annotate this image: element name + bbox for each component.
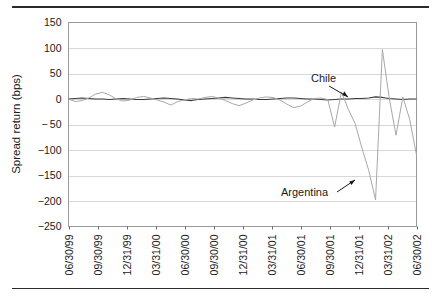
y-tick-label: −200: [38, 195, 62, 207]
gridlines: [69, 49, 417, 202]
x-tick-label: 03/31/02: [382, 234, 394, 275]
annotation-chile-label: Chile: [311, 72, 336, 84]
x-tick-label: 09/30/01: [324, 234, 336, 275]
spread-return-line-chart: 150100500− 50−100−150−200−250 06/30/9909…: [0, 0, 441, 299]
x-tick-label: 09/30/99: [92, 234, 104, 275]
x-tick-label: 03/31/01: [266, 234, 278, 275]
annotation-argentina-label: Argentina: [281, 186, 329, 198]
y-tick-label: 0: [56, 93, 62, 105]
figure-container: 150100500− 50−100−150−200−250 06/30/9909…: [0, 0, 441, 299]
y-tick-label: − 50: [42, 118, 62, 130]
x-tick-label: 06/30/01: [295, 234, 307, 275]
x-tick-label: 09/30/00: [208, 234, 220, 275]
x-tick-label: 12/31/99: [121, 234, 133, 275]
series-line-argentina: [69, 50, 417, 200]
annotation-chile: Chile: [311, 72, 348, 97]
y-tick-label: 50: [50, 67, 62, 79]
y-tick-label: −100: [38, 144, 62, 156]
y-axis-title: Spread return (bps): [10, 74, 22, 174]
annotation-argentina: Argentina: [281, 180, 355, 198]
x-tick-label: 12/31/01: [353, 234, 365, 275]
x-tick-label: 03/31/00: [150, 234, 162, 275]
y-tick-label: 150: [44, 16, 62, 28]
x-tick-label: 06/30/02: [411, 234, 423, 275]
annotation-argentina-arrowhead: [349, 180, 355, 185]
y-axis-tick-labels: 150100500− 50−100−150−200−250: [38, 16, 62, 232]
y-tick-label: 100: [44, 42, 62, 54]
x-tick-label: 06/30/99: [63, 234, 75, 275]
x-tick-label: 12/31/00: [237, 234, 249, 275]
plot-area-frame: [69, 23, 417, 227]
data-series-group: [69, 50, 417, 200]
y-tick-label: −150: [38, 169, 62, 181]
y-tick-label: −250: [38, 220, 62, 232]
x-tick-label: 06/30/00: [179, 234, 191, 275]
x-axis-tick-labels: 06/30/9909/30/9912/31/9903/31/0006/30/00…: [63, 234, 423, 275]
